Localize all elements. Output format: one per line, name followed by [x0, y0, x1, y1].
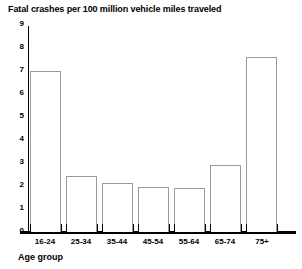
x-tick-label-55-64: 55-64 — [169, 237, 209, 246]
x-tick-mark — [30, 224, 31, 232]
y-tick-label-4: 4 — [8, 135, 24, 143]
x-tick-label-25-34: 25-34 — [61, 237, 101, 246]
bar-75-plus — [246, 57, 277, 232]
x-tick-mark — [241, 224, 242, 232]
y-axis-line — [28, 26, 29, 232]
x-tick-mark — [210, 224, 211, 232]
x-tick-mark — [138, 224, 139, 232]
x-tick-mark — [102, 224, 103, 232]
y-tick-label-5: 5 — [8, 112, 24, 120]
x-tick-mark — [246, 224, 247, 232]
x-tick-mark — [97, 224, 98, 232]
x-tick-mark — [133, 224, 134, 232]
y-tick-label-2: 2 — [8, 181, 24, 189]
x-axis-title: Age group — [18, 252, 63, 262]
plot-area: 9 8 7 6 5 4 3 2 1 0 16-24 25-34 — [0, 0, 302, 269]
y-tick-label-3: 3 — [8, 158, 24, 166]
y-tick-label-1: 1 — [8, 204, 24, 212]
x-tick-label-45-54: 45-54 — [133, 237, 173, 246]
y-tick-label-6: 6 — [8, 89, 24, 97]
bar-45-54 — [138, 187, 169, 232]
y-tick-label-8: 8 — [8, 43, 24, 51]
bar-55-64 — [174, 188, 205, 232]
x-tick-mark — [61, 224, 62, 232]
bar-16-24 — [30, 71, 61, 232]
x-tick-label-75-plus: 75+ — [242, 237, 282, 246]
x-tick-mark — [277, 224, 278, 232]
x-tick-mark — [174, 224, 175, 232]
x-tick-label-35-44: 35-44 — [97, 237, 137, 246]
x-tick-mark — [169, 224, 170, 232]
x-tick-label-16-24: 16-24 — [25, 237, 65, 246]
bar-25-34 — [66, 176, 97, 232]
x-tick-mark — [66, 224, 67, 232]
bar-65-74 — [210, 165, 241, 232]
bar-chart-figure: Fatal crashes per 100 million vehicle mi… — [0, 0, 302, 269]
x-tick-mark — [205, 224, 206, 232]
y-tick-label-9: 9 — [8, 20, 24, 28]
bar-35-44 — [102, 183, 133, 232]
y-tick-label-0: 0 — [8, 227, 24, 235]
x-tick-label-65-74: 65-74 — [205, 237, 245, 246]
y-tick-label-7: 7 — [8, 66, 24, 74]
